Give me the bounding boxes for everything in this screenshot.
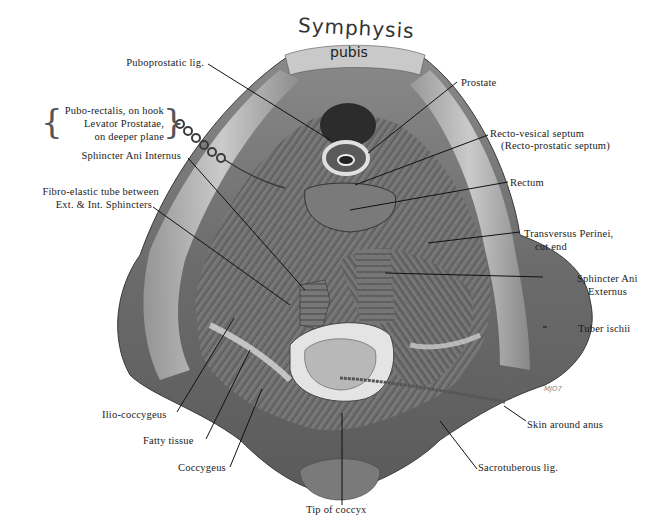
label-puborectalis-2: Levator Prostatae, <box>84 117 164 130</box>
label-sphincter-ani-externus-2: Externus <box>588 285 627 298</box>
label-transversus-perinei-1: Transversus Perinei, <box>524 227 613 240</box>
label-fibro-elastic-2: Ext. & Int. Sphincters <box>56 198 152 211</box>
label-ilio-coccygeus: Ilio-coccygeus <box>102 408 167 421</box>
perineum-illustration <box>0 0 664 531</box>
brace-right: } <box>163 102 185 140</box>
label-skin-around-anus: Skin around anus <box>527 418 603 431</box>
sphincter-externus-band <box>355 248 395 330</box>
label-fatty-tissue: Fatty tissue <box>143 434 194 447</box>
label-coccygeus: Coccygeus <box>178 461 226 474</box>
label-prostate: Prostate <box>461 76 496 89</box>
label-rectum: Rectum <box>510 176 544 189</box>
label-puborectalis-1: Pubo-rectalis, on hook <box>65 104 164 117</box>
label-puborectalis-3: on deeper plane <box>95 130 164 143</box>
brace-left: { <box>41 102 63 140</box>
label-tuber-ischii: Tuber ischii <box>578 322 630 335</box>
label-tip-of-coccyx: Tip of coccyx <box>306 503 367 516</box>
label-fibro-elastic-1: Fibro-elastic tube between <box>42 185 159 198</box>
label-sphincter-ani-externus-1: Sphincter Ani <box>577 272 638 285</box>
coccyx <box>300 459 380 500</box>
label-sacrotuberous-lig: Sacrotuberous lig. <box>478 461 558 474</box>
label-puboprostatic-lig: Puboprostatic lig. <box>126 56 204 69</box>
title-pubis: pubis <box>330 44 368 60</box>
label-sphincter-ani-internus: Sphincter Ani Internus <box>82 149 181 162</box>
label-recto-vesical-2: (Recto-prostatic septum) <box>501 139 610 152</box>
label-transversus-perinei-2: cut end <box>535 240 567 253</box>
artist-signature: MJO7 <box>544 385 562 393</box>
